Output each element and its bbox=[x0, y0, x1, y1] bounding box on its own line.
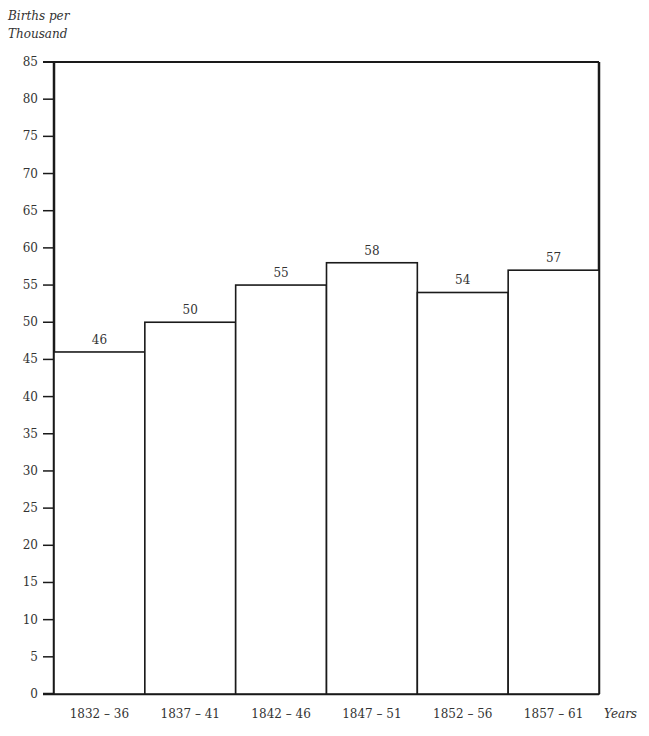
y-tick-label: 5 bbox=[30, 650, 38, 664]
bars: 465055585457 bbox=[54, 244, 599, 694]
bar-1842-46 bbox=[236, 285, 327, 694]
bar-1847-51 bbox=[327, 263, 418, 694]
bar-1852-56 bbox=[417, 292, 508, 694]
y-tick-label: 70 bbox=[23, 167, 38, 181]
y-tick-label: 25 bbox=[23, 501, 38, 515]
bar-1857-61 bbox=[508, 270, 599, 694]
y-axis-ticks: 0510152025303540455055606570758085 bbox=[23, 55, 54, 701]
x-axis-unit-label: Years bbox=[604, 707, 637, 721]
y-tick-label: 15 bbox=[23, 575, 38, 589]
bar-value-label: 54 bbox=[455, 273, 471, 287]
y-tick-label: 60 bbox=[23, 241, 38, 255]
x-category-label: 1852 – 56 bbox=[433, 707, 492, 721]
y-tick-label: 45 bbox=[23, 352, 38, 366]
y-tick-label: 85 bbox=[23, 55, 38, 69]
y-tick-label: 65 bbox=[23, 204, 38, 218]
x-category-label: 1832 – 36 bbox=[70, 707, 129, 721]
bar-value-label: 46 bbox=[92, 333, 107, 347]
histogram-chart: 0510152025303540455055606570758085 46505… bbox=[0, 0, 649, 736]
x-category-label: 1847 – 51 bbox=[342, 707, 401, 721]
y-tick-label: 35 bbox=[23, 427, 38, 441]
y-tick-label: 30 bbox=[23, 464, 38, 478]
y-tick-label: 80 bbox=[23, 92, 38, 106]
y-tick-label: 20 bbox=[23, 538, 38, 552]
y-tick-label: 0 bbox=[30, 687, 38, 701]
x-category-label: 1837 – 41 bbox=[161, 707, 220, 721]
bar-value-label: 50 bbox=[183, 303, 198, 317]
y-tick-label: 55 bbox=[23, 278, 38, 292]
y-tick-label: 40 bbox=[23, 390, 38, 404]
x-axis-labels: 1832 – 361837 – 411842 – 461847 – 511852… bbox=[70, 707, 584, 721]
y-tick-label: 10 bbox=[23, 613, 38, 627]
bar-value-label: 58 bbox=[364, 244, 379, 258]
x-category-label: 1842 – 46 bbox=[251, 707, 310, 721]
bar-1837-41 bbox=[145, 322, 236, 694]
y-tick-label: 75 bbox=[23, 129, 38, 143]
bar-1832-36 bbox=[54, 352, 145, 694]
bar-value-label: 57 bbox=[546, 251, 561, 265]
x-category-label: 1857 – 61 bbox=[524, 707, 583, 721]
bar-value-label: 55 bbox=[273, 266, 288, 280]
y-tick-label: 50 bbox=[23, 315, 38, 329]
